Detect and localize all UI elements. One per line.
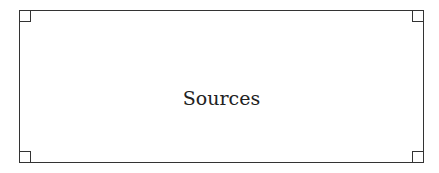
corner-marker-bottom-left — [19, 151, 31, 163]
box-label: Sources — [20, 87, 423, 109]
corner-marker-top-left — [19, 10, 31, 22]
corner-marker-bottom-right — [412, 151, 424, 163]
sources-box: Sources — [19, 10, 424, 163]
corner-marker-top-right — [412, 10, 424, 22]
